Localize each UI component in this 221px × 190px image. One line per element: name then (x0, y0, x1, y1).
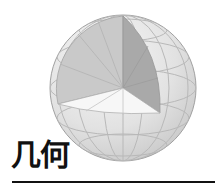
page-title: 几何 (11, 138, 69, 172)
title-underline (12, 181, 215, 183)
